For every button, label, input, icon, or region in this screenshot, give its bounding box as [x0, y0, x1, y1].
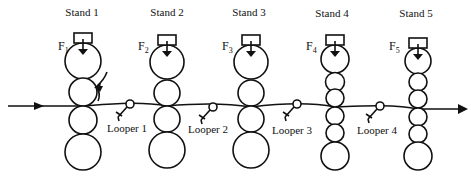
roll [404, 142, 432, 170]
roll [238, 106, 264, 132]
force-f4-label: F4 [306, 40, 317, 55]
roll [69, 106, 97, 134]
roll [238, 80, 264, 106]
stand-1-label: Stand 1 [65, 7, 98, 18]
rotation-arrow-top-icon [97, 72, 107, 86]
force-f5-label: F5 [389, 40, 400, 55]
stand-4-label: Stand 4 [315, 8, 348, 19]
roll [149, 132, 185, 168]
rolling-mill-diagram: Stand 1 Stand 2 Stand 3 Stand 4 Stand 5 … [0, 0, 471, 178]
roll [69, 78, 97, 106]
roll [65, 134, 101, 170]
roll [409, 108, 427, 126]
stand-5 [404, 38, 432, 170]
strip-entry-arrow-icon [34, 102, 44, 110]
roll [154, 106, 180, 132]
force-f2-label: F2 [138, 40, 149, 55]
stand-5-label: Stand 5 [399, 8, 432, 19]
stand-3-label: Stand 3 [232, 7, 265, 18]
stand-3 [233, 35, 269, 168]
looper-2-label: Looper 2 [188, 124, 228, 135]
diagram-canvas [0, 0, 471, 178]
stand-2-label: Stand 2 [150, 7, 183, 18]
strip-exit-arrow-icon [458, 104, 468, 114]
stand-1 [65, 33, 101, 170]
stand-4 [321, 35, 349, 170]
roll [326, 89, 344, 107]
roll [409, 125, 427, 143]
looper-4-label: Looper 4 [357, 125, 397, 136]
roll [321, 142, 349, 170]
roll [154, 80, 180, 106]
stand-2 [149, 35, 185, 168]
roll [326, 107, 344, 125]
force-f1-label: F1 [58, 40, 69, 55]
looper-1-label: Looper 1 [107, 123, 147, 134]
looper-3-label: Looper 3 [272, 125, 312, 136]
force-f3-label: F3 [222, 40, 233, 55]
roll [409, 90, 427, 108]
roll [409, 73, 427, 91]
looper-2-icon [199, 103, 217, 124]
roll [326, 124, 344, 142]
roll [233, 132, 269, 168]
